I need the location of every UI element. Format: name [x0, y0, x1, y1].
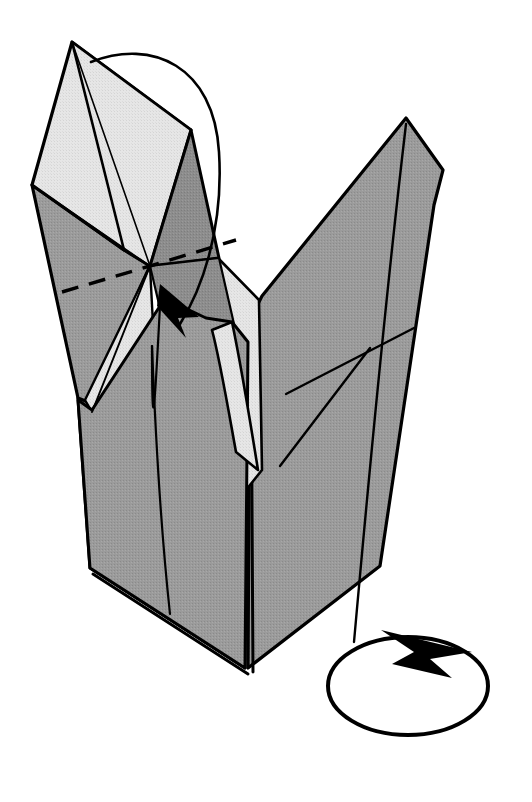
origami-diagram-canvas	[0, 0, 532, 802]
origami-figure-root: Origami Folding Step Diagram Tall open b…	[0, 0, 532, 802]
